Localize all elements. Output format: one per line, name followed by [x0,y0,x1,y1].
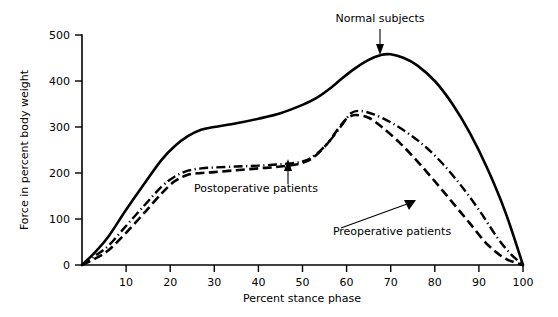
x-tick-label-80: 80 [428,276,442,289]
x-tick-label-20: 20 [163,276,177,289]
y-tick-label-400: 400 [49,75,70,88]
x-axis-title: Percent stance phase [243,292,361,305]
y-tick-label-0: 0 [63,259,70,272]
axes [82,35,523,265]
figure-container: 500 400 300 200 100 0 102030405060708090… [0,0,558,317]
annotation-label-normal-subjects: Normal subjects [336,12,425,25]
x-tick-label-100: 100 [513,276,534,289]
x-tick-label-70: 70 [384,276,398,289]
annotation-postoperative-patients: Postoperative patients [194,159,318,195]
x-tick-label-40: 40 [251,276,265,289]
y-tick-label-300: 300 [49,121,70,134]
series-normal-subjects [82,54,523,265]
annotation-preoperative-patients: Preoperative patients [333,200,452,238]
x-tick-label-90: 90 [472,276,486,289]
annotation-normal-subjects: Normal subjects [336,12,425,55]
y-axis-title: Force in percent body weight [18,69,31,230]
y-axis-tick-labels: 500 400 300 200 100 0 [49,29,70,272]
line-chart: 500 400 300 200 100 0 102030405060708090… [0,0,558,317]
x-tick-label-60: 60 [340,276,354,289]
x-axis-tick-labels: 102030405060708090100 [119,276,533,289]
x-tick-label-10: 10 [119,276,133,289]
x-tick-label-50: 50 [296,276,310,289]
annotation-label-postoperative-patients: Postoperative patients [194,182,318,195]
x-tick-label-30: 30 [207,276,221,289]
x-axis-ticks [126,265,523,272]
y-tick-label-500: 500 [49,29,70,42]
annotation-label-preoperative-patients: Preoperative patients [333,225,452,238]
y-tick-label-200: 200 [49,167,70,180]
y-tick-label-100: 100 [49,213,70,226]
y-axis-ticks [75,35,82,265]
